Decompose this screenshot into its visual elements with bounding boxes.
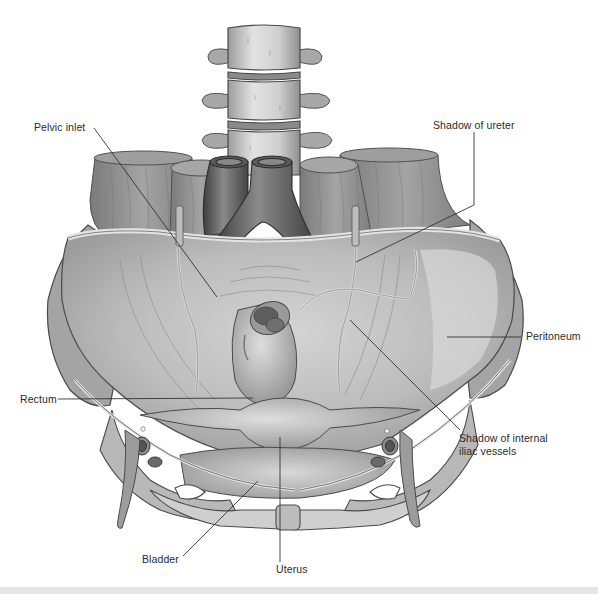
label-shadow-of-ureter: Shadow of ureter <box>433 119 515 132</box>
pelvic-anatomy-illustration <box>0 0 598 594</box>
bottom-strip <box>0 587 598 594</box>
label-uterus: Uterus <box>276 563 308 576</box>
label-pelvic-inlet: Pelvic inlet <box>34 121 85 134</box>
label-line-2: iliac vessels <box>459 445 548 458</box>
label-peritoneum: Peritoneum <box>526 330 581 343</box>
lumbar-spine <box>202 25 332 175</box>
label-rectum: Rectum <box>20 393 57 406</box>
label-line-1: Shadow of internal <box>459 432 548 445</box>
label-shadow-of-internal-iliac-vessels: Shadow of internal iliac vessels <box>459 432 548 458</box>
label-bladder: Bladder <box>142 553 179 566</box>
rectum <box>232 296 297 405</box>
